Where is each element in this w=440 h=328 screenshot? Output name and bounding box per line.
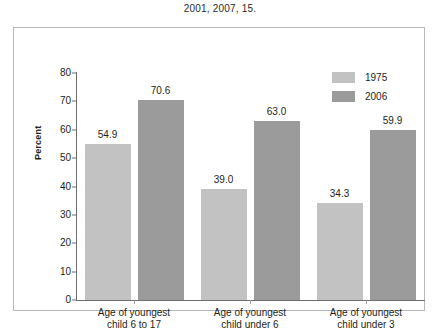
legend-label-1975: 1975 bbox=[365, 73, 387, 83]
y-axis-tick-mark bbox=[72, 243, 76, 244]
bar-value-label: 70.6 bbox=[151, 86, 170, 96]
legend-label-2006: 2006 bbox=[365, 92, 387, 102]
chart-legend: 1975 2006 bbox=[332, 70, 387, 108]
x-axis-category-line: Age of youngest bbox=[330, 307, 402, 319]
bar: 59.9 bbox=[370, 130, 416, 300]
y-axis-tick-label: 10 bbox=[60, 267, 71, 277]
legend-swatch-1975 bbox=[332, 72, 355, 83]
y-axis-tick-label: 20 bbox=[60, 238, 71, 248]
y-axis-tick-mark bbox=[72, 271, 76, 272]
bar: 70.6 bbox=[138, 100, 184, 300]
x-axis-category-line: Age of youngest bbox=[98, 307, 170, 319]
x-axis-tick-mark bbox=[366, 300, 367, 304]
x-axis-category-label: Age of youngestchild 6 to 17 bbox=[98, 307, 170, 328]
x-axis-tick-mark bbox=[134, 300, 135, 304]
bar-value-label: 34.3 bbox=[330, 189, 349, 199]
bar: 34.3 bbox=[317, 203, 363, 300]
y-axis-tick-label: 30 bbox=[60, 210, 71, 220]
y-axis-tick-label: 80 bbox=[60, 68, 71, 78]
bar-value-label: 63.0 bbox=[267, 107, 286, 117]
bar-value-label: 54.9 bbox=[98, 130, 117, 140]
legend-swatch-2006 bbox=[332, 91, 355, 102]
x-axis-category-label: Age of youngestchild under 3 bbox=[330, 307, 402, 328]
y-axis-tick-label: 0 bbox=[65, 295, 71, 305]
bar-value-label: 39.0 bbox=[214, 175, 233, 185]
legend-item-2006: 2006 bbox=[332, 89, 387, 104]
y-axis-tick-label: 40 bbox=[60, 182, 71, 192]
y-axis-tick-mark bbox=[72, 158, 76, 159]
x-axis-category-line: child under 3 bbox=[330, 319, 402, 328]
y-axis-title: Percent bbox=[33, 126, 43, 160]
x-axis-category-label: Age of youngestchild under 6 bbox=[214, 307, 286, 328]
legend-item-1975: 1975 bbox=[332, 70, 387, 85]
y-axis-tick-mark bbox=[72, 214, 76, 215]
x-axis-category-line: child 6 to 17 bbox=[98, 319, 170, 328]
figure-caption: 2001, 2007, 15. bbox=[0, 3, 440, 14]
x-axis-category-line: Age of youngest bbox=[214, 307, 286, 319]
bar: 63.0 bbox=[254, 121, 300, 300]
bar-value-label: 59.9 bbox=[383, 116, 402, 126]
x-axis-tick-mark bbox=[250, 300, 251, 304]
y-axis-tick-mark bbox=[72, 129, 76, 130]
x-axis-category-line: child under 6 bbox=[214, 319, 286, 328]
y-axis-tick-label: 70 bbox=[60, 96, 71, 106]
y-axis-tick-mark bbox=[72, 186, 76, 187]
y-axis-tick-mark bbox=[72, 101, 76, 102]
y-axis-tick-mark bbox=[72, 300, 76, 301]
figure-frame: Percent 01020304050607080 54.970.639.063… bbox=[13, 27, 425, 311]
bar: 39.0 bbox=[201, 189, 247, 300]
bar: 54.9 bbox=[85, 144, 131, 300]
y-axis-tick-label: 60 bbox=[60, 125, 71, 135]
y-axis-tick-mark bbox=[72, 73, 76, 74]
y-axis-tick-label: 50 bbox=[60, 153, 71, 163]
